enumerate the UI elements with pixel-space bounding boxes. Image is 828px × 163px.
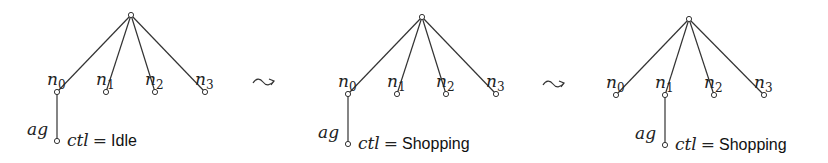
leads-to-arrow-icon <box>543 81 564 87</box>
leaf-label: n3 <box>486 71 505 94</box>
agent-node <box>345 141 350 146</box>
agent-node <box>662 142 667 147</box>
leaf-label: n0 <box>47 69 66 92</box>
leaf-label: n2 <box>704 72 723 95</box>
root-node <box>128 12 133 17</box>
tree-edge <box>57 15 131 92</box>
agent-label: ag <box>635 123 656 143</box>
tree-edge <box>422 17 496 94</box>
agent-label: ag <box>318 122 339 142</box>
leaf-label: n0 <box>606 72 625 95</box>
agent-control-state: ctl=Shopping <box>675 134 787 154</box>
tree-panel-0: n0n1n2n3agctl=Idle <box>27 12 214 150</box>
tree-panel-2: n0n1n2n3agctl=Shopping <box>606 16 787 154</box>
tree-edge <box>348 17 422 94</box>
tree-edge <box>131 15 205 92</box>
leaf-label: n0 <box>338 71 357 94</box>
leaf-label: n2 <box>436 71 455 94</box>
transition-diagram: n0n1n2n3agctl=Idlen0n1n2n3agctl=Shopping… <box>0 0 828 163</box>
leaf-label: n2 <box>145 69 164 92</box>
root-node <box>419 14 424 19</box>
tree-edge <box>616 19 689 95</box>
leaf-label: n3 <box>754 72 773 95</box>
leaf-label: n3 <box>195 69 214 92</box>
root-node <box>686 16 691 21</box>
tree-edge <box>689 19 764 95</box>
agent-control-state: ctl=Shopping <box>358 133 470 153</box>
agent-label: ag <box>27 119 48 139</box>
leads-to-arrow-icon <box>253 79 274 85</box>
agent-node <box>54 138 59 143</box>
agent-control-state: ctl=Idle <box>67 130 137 150</box>
tree-panel-1: n0n1n2n3agctl=Shopping <box>318 14 505 153</box>
